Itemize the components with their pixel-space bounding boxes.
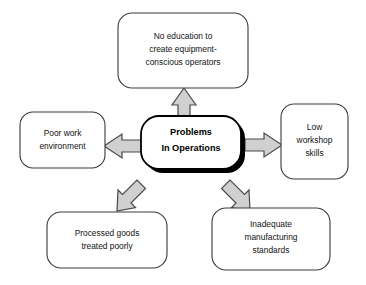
center-node-line-1: Problems — [170, 127, 212, 137]
processed-goods-node-shape — [47, 212, 167, 268]
no-education-node[interactable]: No education to create equipment- consci… — [118, 13, 248, 88]
processed-goods-node[interactable]: Processed goods treated poorly — [47, 212, 167, 268]
low-workshop-skills-node-line-2: workshop — [296, 135, 333, 145]
low-workshop-skills-node[interactable]: Low workshop skills — [281, 104, 348, 179]
inadequate-standards-node-line-1: Inadequate — [250, 219, 292, 229]
inadequate-standards-node-line-3: standards — [253, 245, 290, 255]
poor-work-environment-node-line-1: Poor work — [44, 128, 83, 138]
arrow-right-icon — [245, 133, 282, 157]
arrow-left-icon — [104, 134, 142, 158]
low-workshop-skills-node-line-1: Low — [307, 122, 323, 132]
problems-in-operations-diagram: No education to create equipment- consci… — [0, 0, 366, 285]
processed-goods-node-line-2: treated poorly — [81, 241, 133, 251]
inadequate-standards-node-line-2: manufacturing — [244, 232, 297, 242]
arrow-down-right-icon — [222, 180, 251, 211]
poor-work-environment-node-shape — [20, 112, 105, 168]
no-education-node-line-1: No education to — [154, 31, 213, 41]
processed-goods-node-line-1: Processed goods — [75, 228, 140, 238]
problems-in-operations[interactable]: Problems In Operations — [141, 116, 245, 173]
poor-work-environment-node[interactable]: Poor work environment — [20, 112, 105, 168]
low-workshop-skills-node-line-3: skills — [305, 148, 323, 158]
inadequate-standards-node[interactable]: Inadequate manufacturing standards — [212, 208, 330, 270]
arrow-down-left-icon — [117, 180, 146, 211]
diagram-root: No education to create equipment- consci… — [0, 0, 366, 285]
no-education-node-line-2: create equipment- — [149, 44, 217, 54]
no-education-node-line-3: conscious operators — [146, 57, 221, 67]
poor-work-environment-node-line-2: environment — [39, 141, 86, 151]
center-node-line-2: In Operations — [161, 143, 220, 153]
